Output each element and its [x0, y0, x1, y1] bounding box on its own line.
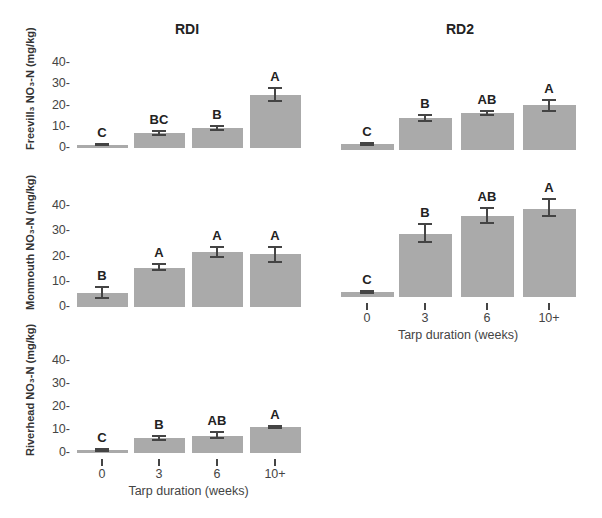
significance-letter: C	[362, 124, 371, 139]
significance-letter: B	[212, 107, 221, 122]
error-cap	[542, 99, 556, 101]
x-tick	[486, 303, 488, 310]
x-tick	[424, 303, 426, 310]
error-bar	[486, 208, 488, 223]
significance-letter: A	[544, 81, 553, 96]
error-cap	[152, 435, 166, 437]
bar	[461, 113, 514, 150]
bar	[250, 95, 301, 148]
error-bar	[274, 88, 276, 102]
error-cap	[95, 144, 109, 146]
y-tick-label: 10-	[30, 274, 70, 288]
error-cap	[210, 125, 224, 127]
error-bar	[274, 247, 276, 262]
bar	[461, 216, 514, 297]
x-tick-label: 10+	[538, 311, 559, 325]
x-tick	[216, 459, 218, 466]
y-axis-label-monmouth: Monmouth NO₃-N (mg/kg)	[24, 175, 36, 310]
error-cap	[268, 100, 282, 102]
y-tick-label: 20-	[30, 249, 70, 263]
error-cap	[95, 297, 109, 299]
y-tick-label: 0-	[30, 140, 70, 154]
bar	[134, 268, 185, 307]
error-cap	[542, 215, 556, 217]
y-tick-label: 30-	[30, 376, 70, 390]
error-cap	[95, 450, 109, 452]
y-tick-label: 20-	[30, 98, 70, 112]
error-cap	[152, 269, 166, 271]
bar	[399, 234, 452, 297]
y-tick-label: 40-	[30, 353, 70, 367]
significance-letter: AB	[208, 413, 227, 428]
error-cap	[480, 114, 494, 116]
y-tick-label: 0-	[30, 445, 70, 459]
significance-letter: BC	[150, 112, 169, 127]
significance-letter: C	[362, 272, 371, 287]
y-tick-label: 10-	[30, 119, 70, 133]
error-cap	[210, 129, 224, 131]
x-tick	[548, 303, 550, 310]
error-cap	[210, 431, 224, 433]
error-cap	[480, 110, 494, 112]
significance-letter: B	[154, 417, 163, 432]
error-cap	[268, 246, 282, 248]
error-cap	[360, 144, 374, 146]
significance-letter: A	[212, 228, 221, 243]
error-cap	[542, 198, 556, 200]
y-tick-label: 40-	[30, 198, 70, 212]
error-cap	[418, 223, 432, 225]
column-title-rd1: RDI	[175, 21, 199, 37]
error-cap	[268, 261, 282, 263]
error-cap	[268, 87, 282, 89]
error-cap	[542, 110, 556, 112]
x-tick-label: 6	[214, 467, 221, 481]
y-tick-label: 30-	[30, 223, 70, 237]
y-tick-label: 0-	[30, 299, 70, 313]
error-cap	[210, 437, 224, 439]
error-cap	[210, 246, 224, 248]
column-title-rd2: RD2	[446, 21, 474, 37]
significance-letter: A	[270, 69, 279, 84]
x-tick-label: 3	[156, 467, 163, 481]
x-axis-title: Tarp duration (weeks)	[398, 328, 518, 342]
bar	[250, 427, 301, 453]
significance-letter: B	[97, 268, 106, 283]
error-cap	[152, 439, 166, 441]
y-tick-label: 40-	[30, 55, 70, 69]
x-tick-label: 0	[364, 311, 371, 325]
error-cap	[95, 286, 109, 288]
significance-letter: AB	[478, 92, 497, 107]
bar	[399, 118, 452, 150]
x-tick-label: 10+	[264, 467, 285, 481]
significance-letter: B	[420, 96, 429, 111]
significance-letter: A	[270, 407, 279, 422]
significance-letter: C	[97, 430, 106, 445]
significance-letter: C	[97, 125, 106, 140]
error-cap	[268, 427, 282, 429]
significance-letter: AB	[478, 189, 497, 204]
error-bar	[424, 224, 426, 242]
error-bar	[548, 199, 550, 217]
x-tick-label: 3	[422, 311, 429, 325]
error-cap	[480, 222, 494, 224]
significance-letter: A	[270, 228, 279, 243]
x-tick	[366, 303, 368, 310]
y-tick-label: 10-	[30, 422, 70, 436]
x-tick-label: 0	[99, 467, 106, 481]
x-tick	[274, 459, 276, 466]
error-cap	[360, 292, 374, 294]
significance-letter: B	[420, 205, 429, 220]
error-cap	[152, 130, 166, 132]
x-tick-label: 6	[484, 311, 491, 325]
error-cap	[152, 263, 166, 265]
bar	[523, 105, 576, 150]
error-cap	[418, 120, 432, 122]
x-axis-title: Tarp duration (weeks)	[128, 484, 248, 498]
y-tick-label: 30-	[30, 76, 70, 90]
x-tick	[101, 459, 103, 466]
error-cap	[418, 241, 432, 243]
error-cap	[152, 134, 166, 136]
significance-letter: A	[544, 180, 553, 195]
bar	[192, 252, 243, 307]
significance-letter: A	[154, 245, 163, 260]
